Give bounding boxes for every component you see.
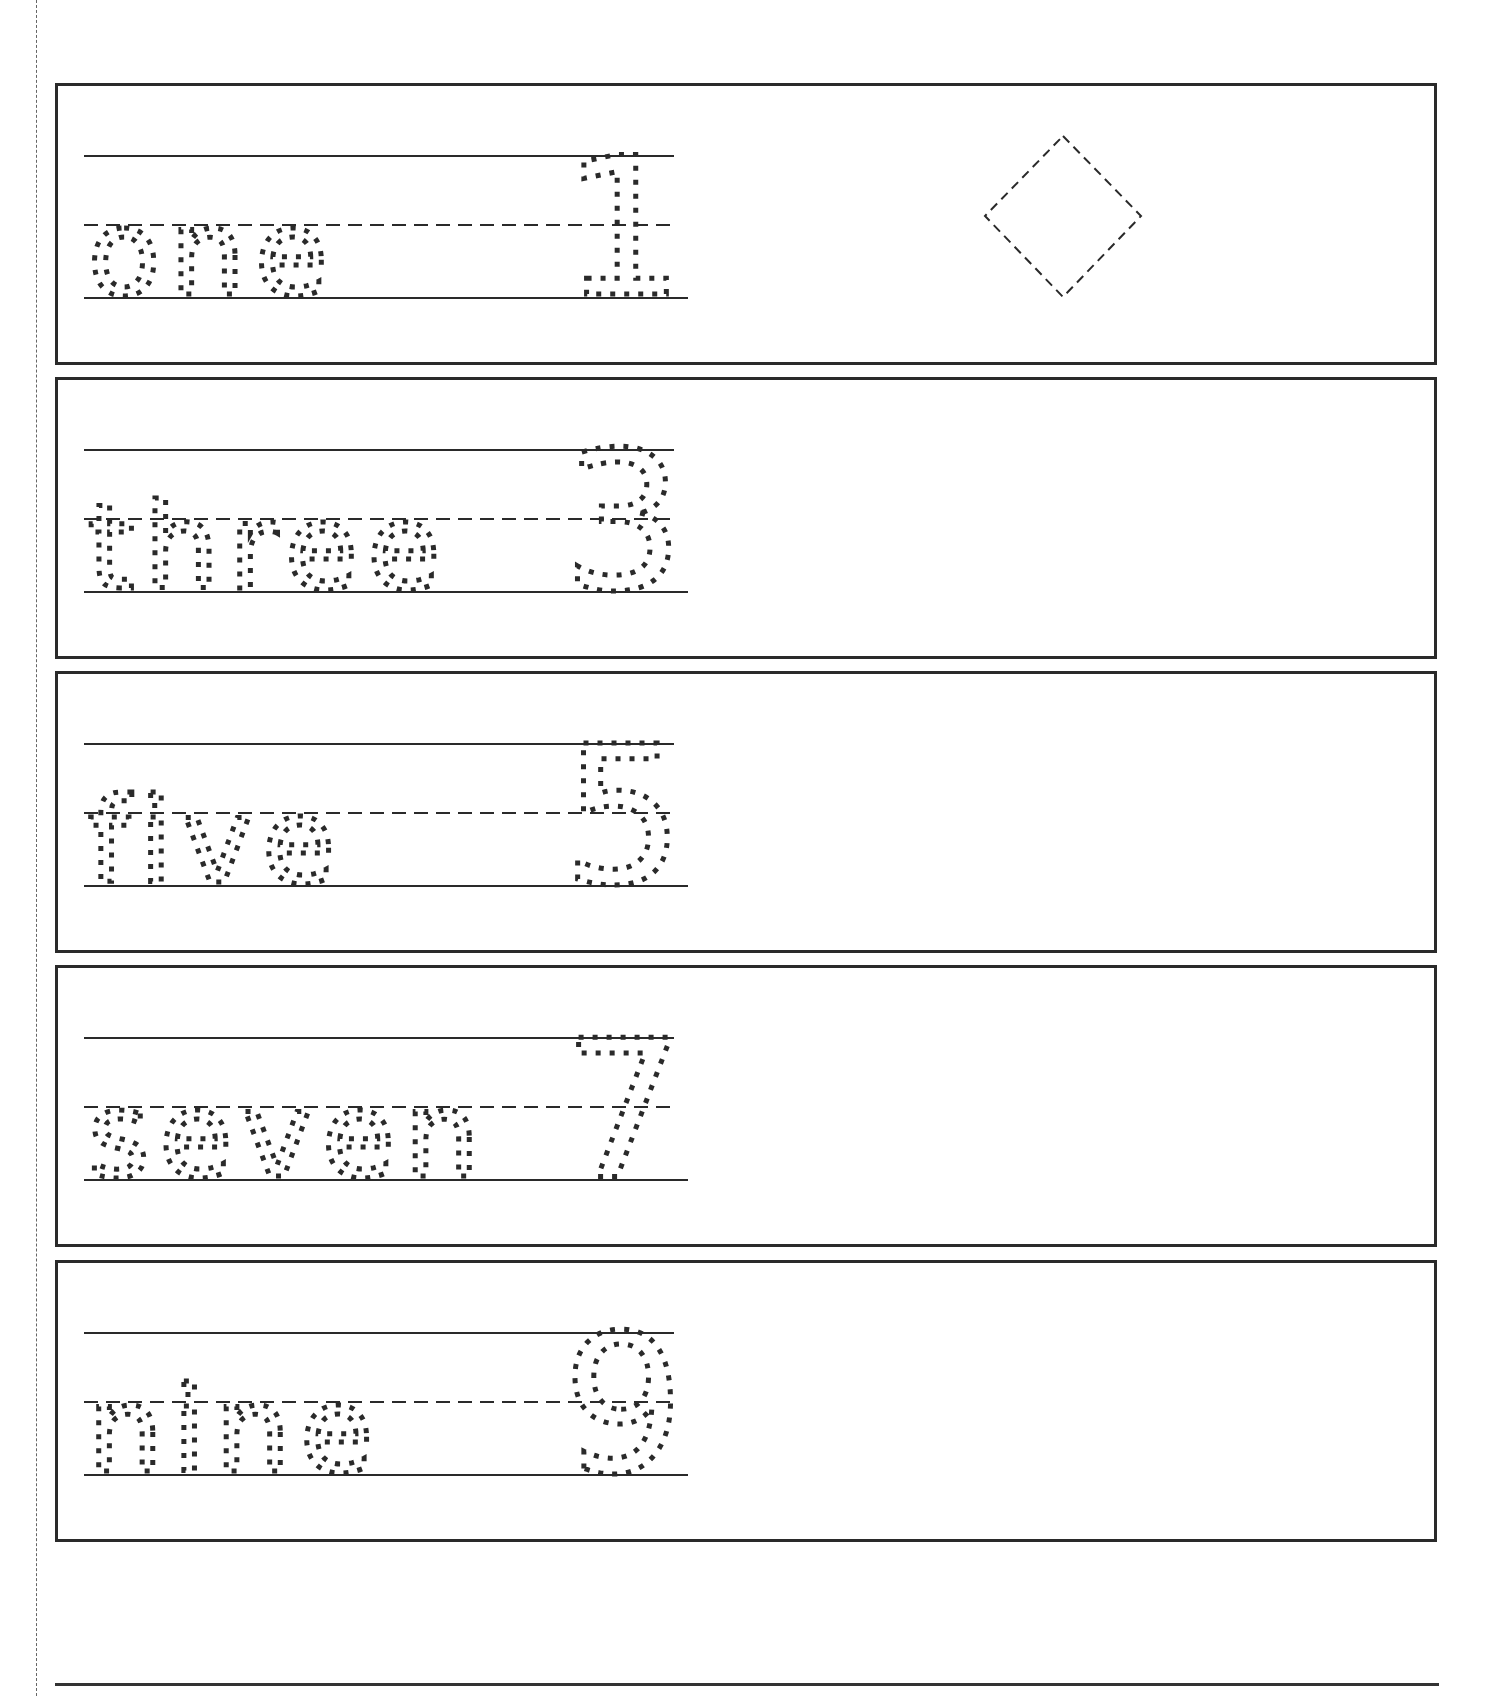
tracing-row-nine: nine 9	[55, 1260, 1437, 1542]
tracing-word[interactable]: one	[88, 184, 338, 322]
tracing-row-five: five 5	[55, 671, 1437, 953]
tracing-numeral[interactable]: 5	[563, 706, 684, 927]
cut-line	[36, 0, 37, 1696]
tracing-numeral[interactable]: 7	[563, 1000, 684, 1221]
diamond-shape	[985, 136, 1141, 297]
tracing-row-three: three 3	[55, 377, 1437, 659]
tracing-word[interactable]: nine	[88, 1361, 383, 1499]
tracing-word[interactable]: five	[88, 772, 345, 910]
tracing-row-one: one 1	[55, 83, 1437, 365]
tracing-row-seven: seven 7	[55, 965, 1437, 1247]
tracing-word[interactable]: three	[88, 478, 450, 616]
tracing-word[interactable]: seven	[88, 1066, 489, 1204]
tracing-numeral[interactable]: 1	[563, 118, 684, 339]
bottom-rule	[55, 1683, 1439, 1686]
tracing-numeral[interactable]: 3	[563, 412, 684, 633]
tracing-numeral[interactable]: 9	[563, 1295, 684, 1516]
